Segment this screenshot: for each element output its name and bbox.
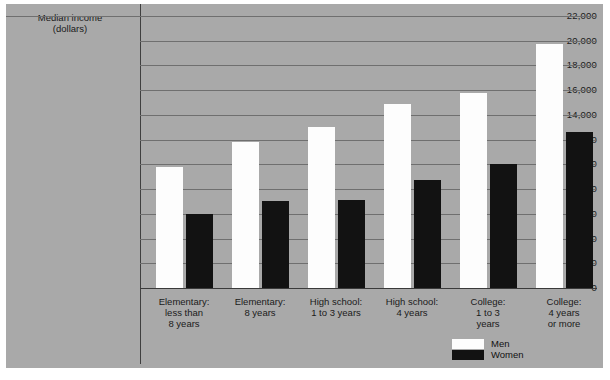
legend-label-men: Men — [491, 338, 509, 349]
x-category-label-2-line-1: Elementary: — [235, 296, 286, 307]
legend-item-men: Men — [452, 338, 524, 349]
gridline-0 — [140, 288, 597, 289]
bar-women-2 — [262, 201, 289, 288]
bar-men-3 — [308, 127, 335, 288]
x-category-label-5-line-3: years — [476, 318, 499, 329]
x-category-label-3-line-2: 1 to 3 years — [311, 307, 361, 318]
x-category-label-4-line-2: 4 years — [396, 307, 427, 318]
chart-legend: Men Women — [452, 338, 524, 360]
x-category-label-1-line-2: less than — [165, 307, 203, 318]
x-category-label-6-line-3: or more — [548, 318, 581, 329]
bar-women-4 — [414, 180, 441, 288]
y-axis-title-line2: (dollars) — [53, 23, 87, 34]
gridline-10000 — [140, 164, 597, 165]
gridline-16000 — [140, 90, 597, 91]
legend-item-women: Women — [452, 349, 524, 360]
legend-label-women: Women — [491, 349, 524, 360]
x-category-label-3-line-1: High school: — [310, 296, 362, 307]
x-category-label-1-line-1: Elementary: — [159, 296, 210, 307]
bar-men-4 — [384, 104, 411, 288]
gridline-12000 — [140, 140, 597, 141]
x-category-label-6-line-1: College: — [547, 296, 582, 307]
x-category-label-2-line-2: 8 years — [244, 307, 275, 318]
x-category-label-5-line-1: College: — [471, 296, 506, 307]
chart-frame: Median income (dollars) 22,00020,00018,0… — [6, 4, 603, 368]
gridline-18000 — [140, 65, 597, 66]
plot-area — [140, 4, 597, 288]
bar-men-1 — [156, 167, 183, 288]
gridline-22000 — [140, 16, 597, 17]
legend-swatch-women — [452, 350, 484, 360]
bar-men-2 — [232, 142, 259, 288]
bar-men-6 — [536, 44, 563, 288]
top-rule — [6, 16, 140, 17]
x-category-label-1-line-3: 8 years — [168, 318, 199, 329]
gridline-8000 — [140, 189, 597, 190]
x-category-label-5-line-2: 1 to 3 — [476, 307, 500, 318]
x-category-label-4-line-1: High school: — [386, 296, 438, 307]
bar-men-5 — [460, 93, 487, 288]
gridline-14000 — [140, 115, 597, 116]
y-axis-title-line1: Median income — [38, 12, 102, 23]
x-category-label-6: College:4 yearsor more — [516, 296, 610, 329]
bar-women-3 — [338, 200, 365, 288]
bar-women-1 — [186, 214, 213, 288]
x-category-label-6-line-2: 4 years — [548, 307, 579, 318]
bar-women-6 — [566, 132, 593, 288]
legend-swatch-men — [452, 339, 484, 349]
bar-women-5 — [490, 164, 517, 288]
gridline-20000 — [140, 41, 597, 42]
